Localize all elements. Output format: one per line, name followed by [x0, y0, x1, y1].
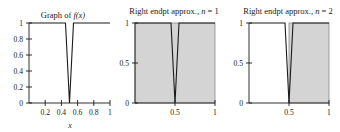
panel-1-x-tick-4: 1	[108, 108, 112, 117]
panel-2-y-tick-0: 0	[125, 99, 129, 108]
panel-1-title-math: f(x)	[73, 10, 85, 20]
panel-3-y-tick-2: 1	[239, 19, 243, 28]
panel-2-rect-0	[135, 23, 215, 103]
panel-1-y-tick-2: 0.4	[14, 67, 24, 76]
panel-graph-of-f: Graph of f(x) 0 0.2 0.4 0.6 0.8 1	[0, 0, 114, 132]
panel-1-x-tick-3: 0.8	[89, 108, 99, 117]
panel-1-x-tick-0: 0.2	[40, 108, 50, 117]
panel-2-x-tick-0: 0.5	[170, 108, 180, 117]
panel-1-function-curve	[29, 23, 110, 103]
panel-3-title-suffix: = 2	[319, 6, 332, 16]
panel-1-x-tick-2: 0.6	[73, 108, 83, 117]
panel-3-title: Right endpt approx., n = 2	[243, 6, 333, 16]
panel-3-y-tick-1: 0.5	[234, 59, 244, 68]
panel-1-y-tick-4: 0.8	[14, 35, 24, 44]
panel-1-x-tick-1: 0.4	[57, 108, 67, 117]
panel-3-x-tick-1: 1	[327, 108, 331, 117]
panel-3-y-tick-0: 0	[239, 99, 243, 108]
panel-1-title: Graph of f(x)	[41, 10, 86, 20]
panel-2-y-tick-1: 0.5	[120, 59, 130, 68]
panel-1-x-axis-label: x	[67, 121, 72, 130]
panel-2-title: Right endpt approx., n = 1	[129, 6, 219, 16]
riemann-sum-figure: Graph of f(x) 0 0.2 0.4 0.6 0.8 1	[0, 0, 340, 132]
panel-1-title-prefix: Graph of	[41, 10, 74, 20]
panel-right-endpt-n1-svg: Right endpt approx., n = 1 0 0.5 1 0	[114, 0, 227, 132]
panel-graph-of-f-svg: Graph of f(x) 0 0.2 0.4 0.6 0.8 1	[0, 0, 114, 132]
panel-1-y-tick-3: 0.6	[14, 51, 24, 60]
panel-2-title-prefix: Right endpt approx.,	[129, 6, 201, 16]
panel-2-y-tick-2: 1	[125, 19, 129, 28]
panel-1-y-tick-1: 0.2	[14, 83, 24, 92]
panel-2-title-suffix: = 1	[205, 6, 218, 16]
panel-3-title-prefix: Right endpt approx.,	[243, 6, 315, 16]
panel-1-y-tick-0: 0	[19, 99, 23, 108]
panel-right-endpt-n1: Right endpt approx., n = 1 0 0.5 1 0	[114, 0, 227, 132]
panel-1-y-tick-5: 1	[19, 19, 23, 28]
panel-3-rect-1	[289, 23, 329, 103]
panel-right-endpt-n2-svg: Right endpt approx., n = 2 0 0.5 1	[227, 0, 340, 132]
panel-3-x-tick-0: 0.5	[284, 108, 294, 117]
panel-right-endpt-n2: Right endpt approx., n = 2 0 0.5 1	[227, 0, 340, 132]
panel-2-x-tick-1: 1	[213, 108, 217, 117]
